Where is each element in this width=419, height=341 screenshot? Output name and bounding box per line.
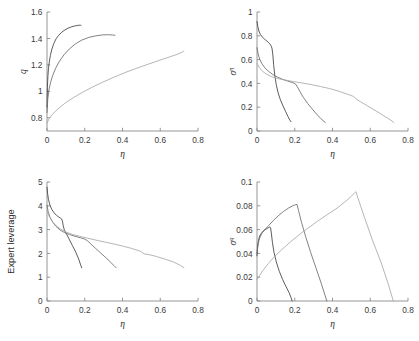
plot-panel-top-left: 00.20.40.60.80.811.21.41.6ηq <box>0 0 209 170</box>
x-tick-label: 0 <box>45 135 50 145</box>
y-tick-label: 0.4 <box>241 79 253 89</box>
data-curve <box>257 22 291 122</box>
plot-panel-bottom-left: 00.20.40.60.8012345ηExpert leverage <box>0 170 209 340</box>
y-tick-label: 1 <box>248 7 253 17</box>
y-axis-label: σq <box>227 237 238 246</box>
x-tick-label: 0.8 <box>192 305 204 315</box>
axis-spine <box>257 182 408 301</box>
plot-panel-top-right: 00.20.40.60.800.20.40.60.81ηση <box>210 0 419 170</box>
x-tick-label: 0.8 <box>402 305 414 315</box>
x-tick-label: 0.8 <box>402 135 414 145</box>
x-tick-label: 0.6 <box>364 305 376 315</box>
y-tick-label: 2 <box>38 249 43 259</box>
y-tick-label: 0.02 <box>236 272 253 282</box>
x-tick-label: 0.4 <box>117 305 129 315</box>
y-tick-label: 0.6 <box>241 55 253 65</box>
y-tick-label: 0.08 <box>236 201 253 211</box>
data-curve <box>47 35 115 113</box>
x-tick-label: 0 <box>255 305 260 315</box>
data-curve <box>47 210 184 268</box>
data-curve <box>257 63 394 122</box>
data-curve <box>257 192 393 301</box>
y-tick-label: 1 <box>38 272 43 282</box>
data-curve <box>47 187 82 267</box>
y-tick-label: 1 <box>38 86 43 96</box>
svg-text:ση: ση <box>227 68 238 76</box>
y-axis-label: Expert leverage <box>6 209 16 273</box>
axis-spine <box>47 12 198 131</box>
y-tick-label: 5 <box>38 177 43 187</box>
y-tick-label: 0.04 <box>236 249 253 259</box>
x-tick-label: 0.6 <box>364 135 376 145</box>
y-tick-label: 0 <box>248 296 253 306</box>
y-axis-label: q <box>18 69 28 74</box>
x-axis-label: η <box>330 319 335 329</box>
x-tick-label: 0.6 <box>154 135 166 145</box>
x-tick-label: 0.4 <box>327 135 339 145</box>
data-curve <box>47 51 184 123</box>
y-tick-label: 1.4 <box>31 34 43 44</box>
x-tick-label: 0.6 <box>154 305 166 315</box>
x-tick-label: 0.4 <box>117 135 129 145</box>
y-tick-label: 0 <box>248 126 253 136</box>
axis-spine <box>257 12 408 131</box>
svg-text:Expert leverage: Expert leverage <box>6 209 16 273</box>
x-tick-label: 0 <box>45 305 50 315</box>
x-axis-label: η <box>120 149 125 159</box>
plot-svg-top-left: 00.20.40.60.80.811.21.41.6ηq <box>0 0 209 170</box>
y-tick-label: 0.1 <box>241 177 253 187</box>
y-tick-label: 1.6 <box>31 7 43 17</box>
x-tick-label: 0.8 <box>192 135 204 145</box>
data-curve <box>47 25 81 107</box>
figure-canvas: 00.20.40.60.80.811.21.41.6ηq 00.20.40.60… <box>0 0 419 341</box>
y-tick-label: 0.06 <box>236 225 253 235</box>
x-tick-label: 0.2 <box>289 305 301 315</box>
plot-svg-bottom-right: 00.20.40.60.800.020.040.060.080.1ησq <box>210 170 419 340</box>
plot-svg-top-right: 00.20.40.60.800.20.40.60.81ηση <box>210 0 419 170</box>
data-curve <box>257 227 292 301</box>
y-tick-label: 0.8 <box>31 113 43 123</box>
y-tick-label: 0.2 <box>241 102 253 112</box>
svg-text:σq: σq <box>227 237 238 246</box>
x-tick-label: 0 <box>255 135 260 145</box>
y-tick-label: 0.8 <box>241 31 253 41</box>
y-tick-label: 4 <box>38 201 43 211</box>
x-tick-label: 0.2 <box>79 305 91 315</box>
data-curve <box>257 204 327 301</box>
plot-panel-bottom-right: 00.20.40.60.800.020.040.060.080.1ησq <box>210 170 419 340</box>
svg-text:q: q <box>18 69 28 74</box>
y-tick-label: 1.2 <box>31 60 43 70</box>
y-tick-label: 0 <box>38 296 43 306</box>
x-axis-label: η <box>330 149 335 159</box>
x-tick-label: 0.2 <box>289 135 301 145</box>
x-tick-label: 0.2 <box>79 135 91 145</box>
x-axis-label: η <box>120 319 125 329</box>
plot-svg-bottom-left: 00.20.40.60.8012345ηExpert leverage <box>0 170 209 340</box>
y-axis-label: ση <box>227 68 238 76</box>
y-tick-label: 3 <box>38 225 43 235</box>
x-tick-label: 0.4 <box>327 305 339 315</box>
axis-spine <box>47 182 198 301</box>
